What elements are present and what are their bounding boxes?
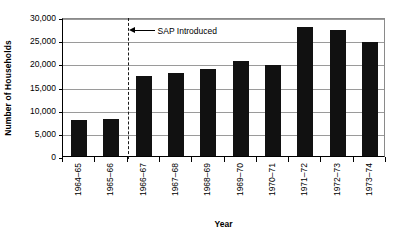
y-tick-label: 25,000 bbox=[30, 36, 56, 46]
bar-series bbox=[63, 19, 384, 156]
y-tick-label: 0 bbox=[51, 152, 56, 162]
plot-area: SAP Introduced bbox=[62, 18, 385, 157]
x-tick-mark bbox=[288, 157, 289, 162]
x-tick-label: 1973–74 bbox=[364, 163, 374, 196]
x-tick-label-slot: 1968–69 bbox=[191, 163, 223, 217]
x-tick-label: 1968–69 bbox=[202, 163, 212, 196]
x-tick-mark bbox=[353, 157, 354, 162]
bar[interactable] bbox=[71, 120, 87, 156]
x-tick-mark bbox=[159, 157, 160, 162]
bar-slot bbox=[192, 19, 224, 156]
x-tick-label: 1964–65 bbox=[73, 163, 83, 196]
left-arrow-icon bbox=[129, 27, 155, 34]
x-tick-label: 1970–71 bbox=[267, 163, 277, 196]
x-tick-mark bbox=[224, 157, 225, 162]
x-tick-label-slot: 1971–72 bbox=[288, 163, 320, 217]
bar-slot bbox=[289, 19, 321, 156]
x-tick-label-slot: 1964–65 bbox=[62, 163, 94, 217]
bar-slot bbox=[257, 19, 289, 156]
x-tick-label: 1967–68 bbox=[170, 163, 180, 196]
bar-slot bbox=[354, 19, 386, 156]
y-tick-label: 30,000 bbox=[30, 13, 56, 23]
bar[interactable] bbox=[200, 69, 216, 156]
bar-slot bbox=[321, 19, 353, 156]
x-axis-tick-labels: 1964–651965–661966–671967–681968–691969–… bbox=[62, 163, 385, 217]
bar[interactable] bbox=[103, 119, 119, 156]
x-tick-label: 1972–73 bbox=[332, 163, 342, 196]
sap-introduced-annotation: SAP Introduced bbox=[129, 26, 217, 36]
bar[interactable] bbox=[233, 61, 249, 156]
x-tick-label-slot: 1969–70 bbox=[224, 163, 256, 217]
x-tick-mark bbox=[256, 157, 257, 162]
bar[interactable] bbox=[136, 76, 152, 156]
bar[interactable] bbox=[330, 30, 346, 156]
bar[interactable] bbox=[362, 42, 378, 156]
bar[interactable] bbox=[168, 73, 184, 156]
bar-chart-figure: Number of Households 05,00010,00015,0002… bbox=[0, 0, 402, 237]
x-tick-label: 1966–67 bbox=[138, 163, 148, 196]
y-axis-tick-labels: 05,00010,00015,00020,00025,00030,000 bbox=[16, 0, 60, 237]
x-tick-label-slot: 1965–66 bbox=[94, 163, 126, 217]
y-tick-label: 20,000 bbox=[30, 59, 56, 69]
bar[interactable] bbox=[265, 65, 281, 156]
bar-slot bbox=[225, 19, 257, 156]
bar-slot bbox=[63, 19, 95, 156]
bar-slot bbox=[160, 19, 192, 156]
x-tick-mark bbox=[320, 157, 321, 162]
y-tick-label: 5,000 bbox=[35, 129, 56, 139]
x-tick-label: 1965–66 bbox=[105, 163, 115, 196]
bar-slot bbox=[95, 19, 127, 156]
x-tick-mark bbox=[127, 157, 128, 162]
x-tick-mark bbox=[62, 157, 63, 162]
y-tick-label: 10,000 bbox=[30, 106, 56, 116]
sap-introduced-marker-line bbox=[128, 18, 129, 159]
x-tick-label: 1971–72 bbox=[299, 163, 309, 196]
x-tick-label: 1969–70 bbox=[235, 163, 245, 196]
x-tick-mark bbox=[385, 157, 386, 162]
x-tick-label-slot: 1970–71 bbox=[256, 163, 288, 217]
x-tick-label-slot: 1966–67 bbox=[127, 163, 159, 217]
x-tick-label-slot: 1972–73 bbox=[320, 163, 352, 217]
bar[interactable] bbox=[297, 27, 313, 156]
x-tick-label-slot: 1967–68 bbox=[159, 163, 191, 217]
bar-slot bbox=[128, 19, 160, 156]
x-tick-mark bbox=[94, 157, 95, 162]
x-tick-label-slot: 1973–74 bbox=[353, 163, 385, 217]
x-tick-mark bbox=[191, 157, 192, 162]
sap-introduced-label: SAP Introduced bbox=[158, 26, 217, 36]
y-tick-label: 15,000 bbox=[30, 83, 56, 93]
y-axis-title: Number of Households bbox=[3, 40, 13, 136]
x-axis-title: Year bbox=[62, 219, 385, 229]
y-axis-title-container: Number of Households bbox=[0, 18, 16, 158]
